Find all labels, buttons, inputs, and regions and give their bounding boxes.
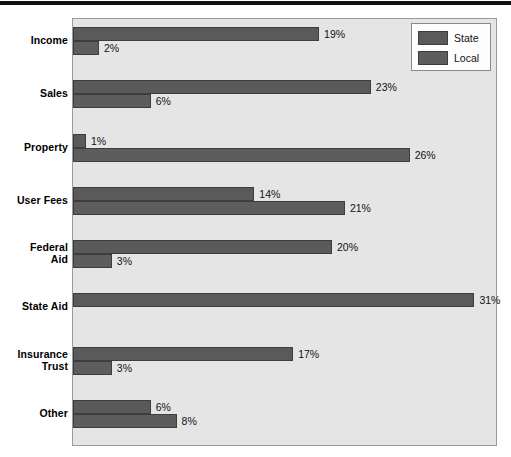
bar-value-label: 6%: [156, 400, 171, 414]
bar-value-label: 3%: [117, 361, 132, 375]
bar-value-label: 31%: [479, 293, 500, 307]
bar-local-sales: [73, 94, 151, 108]
bar-local-federal-aid: [73, 254, 112, 268]
bar-value-label: 3%: [117, 254, 132, 268]
category-label-income: Income: [0, 34, 68, 46]
bar-state-other: [73, 400, 151, 414]
top-divider-rule: [0, 1, 511, 5]
bar-local-other: [73, 414, 177, 428]
category-label-property: Property: [0, 141, 68, 153]
legend-label-local: Local: [454, 51, 479, 65]
category-label-user-fees: User Fees: [0, 194, 68, 206]
legend-item-state[interactable]: State: [418, 29, 484, 46]
plot-area: 19%2%23%6%1%26%14%21%20%3%31%17%3%6%8% S…: [72, 18, 497, 446]
bar-value-label: 23%: [376, 80, 397, 94]
bar-value-label: 8%: [182, 414, 197, 428]
category-label-insurance-trust: InsuranceTrust: [0, 348, 68, 372]
bar-value-label: 17%: [298, 347, 319, 361]
bar-state-property: [73, 134, 86, 148]
bars-layer: 19%2%23%6%1%26%14%21%20%3%31%17%3%6%8%: [73, 19, 496, 445]
bar-state-sales: [73, 80, 371, 94]
bar-state-user-fees: [73, 187, 254, 201]
bar-value-label: 20%: [337, 240, 358, 254]
bar-value-label: 26%: [415, 148, 436, 162]
bar-value-label: 1%: [91, 134, 106, 148]
legend-swatch-local: [418, 51, 448, 65]
bar-value-label: 14%: [259, 187, 280, 201]
legend-item-local[interactable]: Local: [418, 49, 484, 66]
bar-value-label: 2%: [104, 41, 119, 55]
bar-value-label: 21%: [350, 201, 371, 215]
legend-label-state: State: [454, 31, 479, 45]
category-axis-labels: IncomeSalesPropertyUser FeesFederalAidSt…: [0, 18, 68, 446]
category-label-other: Other: [0, 407, 68, 419]
bar-state-state-aid: [73, 293, 474, 307]
bar-state-insurance-trust: [73, 347, 293, 361]
category-label-state-aid: State Aid: [0, 300, 68, 312]
bar-local-insurance-trust: [73, 361, 112, 375]
bar-state-income: [73, 27, 319, 41]
bar-value-label: 19%: [324, 27, 345, 41]
category-label-sales: Sales: [0, 87, 68, 99]
bar-local-income: [73, 41, 99, 55]
chart-figure: IncomeSalesPropertyUser FeesFederalAidSt…: [0, 0, 511, 457]
bar-local-property: [73, 148, 410, 162]
chart-legend: State Local: [411, 23, 491, 71]
bar-local-user-fees: [73, 201, 345, 215]
category-label-federal-aid: FederalAid: [0, 241, 68, 265]
bar-value-label: 6%: [156, 94, 171, 108]
legend-swatch-state: [418, 31, 448, 45]
bar-state-federal-aid: [73, 240, 332, 254]
